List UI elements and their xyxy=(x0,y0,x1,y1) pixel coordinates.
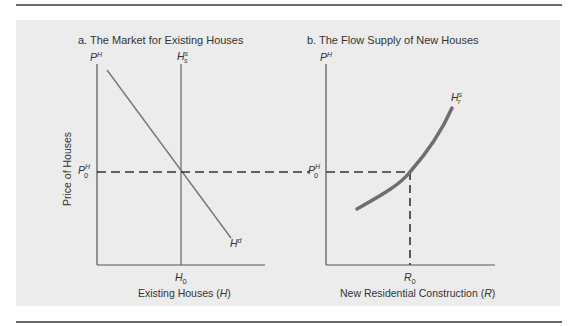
panel-b-y-symbol: PH xyxy=(320,51,333,63)
panel-b-x-marker: R0 xyxy=(404,271,416,286)
panel-a-y-axis-label: Price of Houses xyxy=(61,132,73,206)
panel-a-demand-line xyxy=(107,70,231,238)
panel-b-price-marker: PH0 xyxy=(308,163,321,180)
panel-b-flow-supply-curve xyxy=(357,108,452,209)
panel-b: b. The Flow Supply of New Houses PH PH0 … xyxy=(307,34,495,299)
panel-a-title: a. The Market for Existing Houses xyxy=(78,34,244,46)
panel-b-x-axis-label: New Residential Construction (R) xyxy=(340,287,495,299)
panel-a: a. The Market for Existing Houses PH Pri… xyxy=(61,34,265,299)
panel-a-price-marker: PH0 xyxy=(78,163,91,180)
panel-a-supply-label: Hss xyxy=(177,50,189,64)
panel-a-x-axis-label: Existing Houses (H) xyxy=(138,287,231,299)
panel-a-demand-label: Hd xyxy=(230,237,243,249)
panel-a-y-symbol: PH xyxy=(90,51,103,63)
panel-b-supply-label: Hsr xyxy=(451,91,463,105)
panel-b-title: b. The Flow Supply of New Houses xyxy=(307,34,479,46)
panel-a-x-marker: H0 xyxy=(175,271,187,286)
housing-market-diagram: a. The Market for Existing Houses PH Pri… xyxy=(0,0,580,326)
